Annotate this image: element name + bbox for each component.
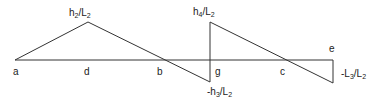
ordinate-neg-L3-L2: -L3/L2 <box>341 68 366 80</box>
ordinate-h2-L2: h2/L2 <box>69 7 91 19</box>
label-a: a <box>13 66 19 77</box>
label-d: d <box>84 66 90 77</box>
influence-line-diagram: a d b g c e h2/L2 h4/L2 -h3/L2 -L3/L2 <box>0 0 376 102</box>
label-e: e <box>329 43 335 54</box>
segment-g-c-e <box>210 22 333 83</box>
label-g: g <box>215 66 221 77</box>
label-b: b <box>157 66 163 77</box>
ordinate-h4-L2: h4/L2 <box>193 6 215 18</box>
label-c: c <box>280 66 285 77</box>
ordinate-neg-h3-L2: -h3/L2 <box>207 86 232 98</box>
segment-a-d-b <box>15 22 210 82</box>
